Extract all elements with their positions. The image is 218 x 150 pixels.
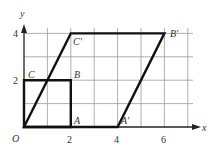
vertex-label-C-prime: C′ xyxy=(73,36,83,47)
tick-x-2: 2 xyxy=(67,134,72,145)
y-axis-arrow-icon xyxy=(21,24,27,33)
tick-x-4: 4 xyxy=(114,134,119,145)
vertex-label-A-prime: A′ xyxy=(120,115,130,126)
coordinate-diagram: y x O 2 4 6 2 4 C B A A′ B′ C′ xyxy=(0,0,218,150)
tick-y-4: 4 xyxy=(13,28,18,39)
tick-x-6: 6 xyxy=(161,134,166,145)
origin-label: O xyxy=(12,133,19,144)
tick-y-2: 2 xyxy=(13,75,18,86)
vertex-label-A: A xyxy=(73,115,81,126)
x-axis-label: x xyxy=(201,122,207,133)
vertex-label-B-prime: B′ xyxy=(170,28,179,39)
x-axis-arrow-icon xyxy=(192,124,201,130)
y-axis-label: y xyxy=(19,8,25,19)
vertex-label-B: B xyxy=(74,69,80,80)
vertex-label-C: C xyxy=(28,69,35,80)
